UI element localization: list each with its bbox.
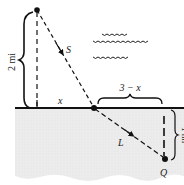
wave-1 — [102, 34, 127, 36]
land-region — [15, 108, 184, 181]
path-s-label: S — [66, 44, 71, 55]
x-label: x — [57, 95, 63, 106]
diagram-canvas: 2 mi S x 3 − x L 1 mi Q — [0, 0, 184, 185]
path-l-label: L — [117, 137, 124, 148]
path-s-arrow — [56, 43, 62, 53]
path-s — [37, 10, 93, 106]
water-waves — [93, 34, 148, 59]
remaining-label: 3 − x — [118, 82, 141, 93]
destination-point — [162, 156, 168, 162]
wave-3 — [93, 57, 128, 59]
start-point — [34, 7, 40, 13]
wave-2 — [93, 41, 148, 43]
destination-label: Q — [160, 167, 168, 178]
offset-distance-label: 1 mi — [180, 127, 184, 144]
vertical-distance-label: 2 mi — [6, 53, 17, 71]
top-brace — [98, 94, 162, 104]
left-brace — [19, 12, 33, 108]
